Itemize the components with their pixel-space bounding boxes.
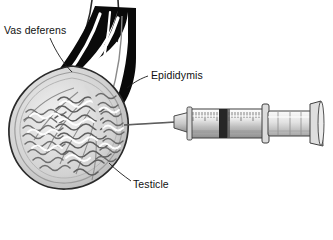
figure-caption-truncated bbox=[8, 205, 208, 211]
plunger-stopper bbox=[219, 109, 228, 138]
label-testicle: Testicle bbox=[133, 178, 169, 190]
label-vas-deferens: Vas deferens bbox=[4, 24, 66, 36]
label-epididymis: Epididymis bbox=[151, 69, 203, 81]
